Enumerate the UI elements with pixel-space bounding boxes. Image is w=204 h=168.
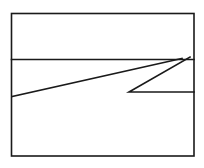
figure-svg: Line drawing of a rectangle divided by a… — [0, 0, 204, 168]
figure-background — [0, 0, 204, 168]
drawing-canvas: Line drawing of a rectangle divided by a… — [0, 0, 204, 168]
